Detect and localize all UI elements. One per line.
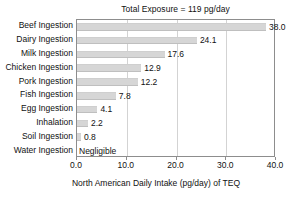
bar xyxy=(77,51,165,59)
bar-row: Negligible xyxy=(77,144,274,158)
bar-value-label: 17.6 xyxy=(168,49,185,60)
bar-value-label: 7.8 xyxy=(119,91,131,102)
bar xyxy=(77,133,81,141)
bar-row: 38.0 xyxy=(77,20,274,34)
bar-row: 24.1 xyxy=(77,34,274,48)
x-axis-ticks: 0.010.020.030.040.0 xyxy=(76,157,275,171)
bar-row: 2.2 xyxy=(77,117,274,131)
y-axis-label-beef-ingestion: Beef Ingestion xyxy=(0,20,73,31)
bar xyxy=(77,106,97,114)
bar-value-label: 12.2 xyxy=(141,77,158,88)
bar xyxy=(77,120,88,128)
y-axis-category-labels: Beef IngestionDairy IngestionMilk Ingest… xyxy=(0,19,73,157)
y-axis-label-inhalation: Inhalation xyxy=(0,117,73,128)
x-axis-title: North American Daily Intake (pg/day) of … xyxy=(36,178,276,188)
x-tick-label-0.0: 0.0 xyxy=(70,160,82,171)
chart-title: Total Exposure = 119 pg/day xyxy=(76,4,275,14)
y-axis-label-pork-ingestion: Pork Ingestion xyxy=(0,76,73,87)
bar-row: 12.9 xyxy=(77,61,274,75)
y-axis-label-water-ingestion: Water Ingestion xyxy=(0,145,73,156)
plot-area: 38.024.117.612.912.27.84.12.20.8Negligib… xyxy=(76,19,275,157)
x-tick-label-10.0: 10.0 xyxy=(117,160,134,171)
bar-value-label: 4.1 xyxy=(100,104,112,115)
y-axis-label-fish-ingestion: Fish Ingestion xyxy=(0,89,73,100)
bar-value-label: 0.8 xyxy=(84,132,96,143)
bar-value-label: 24.1 xyxy=(200,35,217,46)
bar xyxy=(77,78,138,86)
bar xyxy=(77,23,266,31)
bar xyxy=(77,92,116,100)
x-tick-label-30.0: 30.0 xyxy=(217,160,234,171)
y-axis-label-chicken-ingestion: Chicken Ingestion xyxy=(0,62,73,73)
y-axis-label-dairy-ingestion: Dairy Ingestion xyxy=(0,34,73,45)
x-tick-label-40.0: 40.0 xyxy=(267,160,284,171)
y-axis-label-egg-ingestion: Egg Ingestion xyxy=(0,103,73,114)
bar-value-label: Negligible xyxy=(79,146,116,157)
bar-row: 7.8 xyxy=(77,89,274,103)
bar-row: 12.2 xyxy=(77,75,274,89)
bar-value-label: 12.9 xyxy=(144,63,161,74)
bar-row: 4.1 xyxy=(77,103,274,117)
y-axis-label-milk-ingestion: Milk Ingestion xyxy=(0,48,73,59)
x-tick-label-20.0: 20.0 xyxy=(167,160,184,171)
bar-value-label: 38.0 xyxy=(269,22,286,33)
bar-row: 17.6 xyxy=(77,48,274,62)
bar-value-label: 2.2 xyxy=(91,118,103,129)
y-axis-label-soil-ingestion: Soil Ingestion xyxy=(0,131,73,142)
bar xyxy=(77,64,141,72)
bar xyxy=(77,37,197,45)
bar-row: 0.8 xyxy=(77,130,274,144)
bar-series: 38.024.117.612.912.27.84.12.20.8Negligib… xyxy=(77,20,274,156)
bar-chart: Total Exposure = 119 pg/day 38.024.117.6… xyxy=(0,0,290,201)
